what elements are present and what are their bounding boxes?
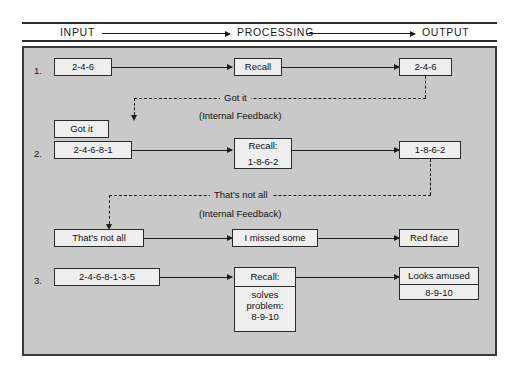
- header-label-output: OUTPUT: [422, 26, 469, 38]
- row-2-internal-feedback-caption: (Internal Feedback): [199, 208, 281, 219]
- row-3-processing-line-3: 8-9-10: [235, 312, 295, 323]
- header-arrow-processing-to-output: [307, 33, 415, 34]
- row-1-processing-box: Recall: [234, 58, 282, 76]
- row-1-feedback-label: Got it: [220, 92, 251, 103]
- row-2-processing-value: 1-8-6-2: [235, 154, 291, 170]
- row-1-feedback-box: Got it: [54, 120, 109, 138]
- row-2-feedback-processing-box: I missed some: [232, 229, 318, 247]
- row-1-feedback-line-down-from-output: [425, 76, 426, 98]
- row-3-input-box: 2-4-6-8-1-3-5: [54, 268, 160, 286]
- header-label-input: INPUT: [60, 26, 95, 38]
- row-2-arrow-processing-to-output: [292, 150, 399, 151]
- row-1-arrow-processing-to-output: [282, 67, 399, 68]
- row-1-arrow-input-to-processing: [112, 67, 232, 68]
- row-3-output-line-1: Looks amused: [400, 268, 478, 285]
- header-arrow-input-to-processing: [102, 33, 230, 34]
- row-1-number: 1.: [34, 65, 42, 76]
- row-3-processing-title: Recall:: [235, 268, 295, 287]
- row-2-input-box: 2-4-6-8-1: [54, 141, 132, 159]
- row-1-input-box: 2-4-6: [54, 58, 112, 76]
- row-1-internal-feedback-caption: (Internal Feedback): [199, 110, 281, 121]
- row-1-feedback-line-down-to-box: [134, 98, 135, 115]
- row-2-feedback-line-down-to-box: [109, 195, 110, 224]
- header-label-processing: PROCESSING: [237, 26, 314, 38]
- row-3-output-line-2: 8-9-10: [400, 285, 478, 301]
- row-2-number: 2.: [34, 148, 42, 159]
- row-3-arrow-input-to-processing: [160, 277, 232, 278]
- row-2-processing-box: Recall: 1-8-6-2: [234, 138, 292, 169]
- row-2-feedback-box: That's not all: [54, 229, 144, 247]
- row-3-output-box: Looks amused 8-9-10: [399, 267, 479, 300]
- row-3-processing-detail: solves problem: 8-9-10: [235, 287, 295, 331]
- row-2-arrow-input-to-processing: [132, 150, 232, 151]
- row-1-output-box: 2-4-6: [399, 58, 452, 76]
- process-feedback-diagram: INPUT PROCESSING OUTPUT 1. 2-4-6 Recall …: [0, 0, 518, 375]
- row-3-processing-box: Recall: solves problem: 8-9-10: [234, 267, 296, 332]
- row-2-output-box: 1-8-6-2: [399, 141, 461, 159]
- row-2-feedback-output-box: Red face: [399, 229, 459, 247]
- row-2-feedback-label: That's not all: [210, 189, 272, 200]
- row-2-arrow-feedback-to-output: [318, 238, 399, 239]
- row-2-processing-title: Recall:: [235, 139, 291, 154]
- row-1-feedback-line-horizontal: [134, 98, 426, 99]
- row-2-feedback-line-down-from-output: [430, 159, 431, 195]
- diagram-plate: 1. 2-4-6 Recall 2-4-6 Got it (Internal F…: [22, 46, 497, 356]
- row-3-arrow-processing-to-output: [296, 277, 399, 278]
- row-3-number: 3.: [34, 275, 42, 286]
- diagram-header: INPUT PROCESSING OUTPUT: [22, 22, 497, 42]
- row-2-arrow-feedback-to-processing: [144, 238, 232, 239]
